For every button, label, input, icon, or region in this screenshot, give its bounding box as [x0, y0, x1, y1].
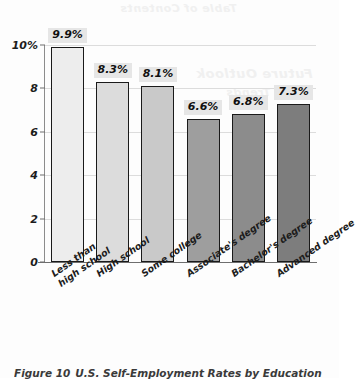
bar-value-label: 6.8%	[229, 95, 268, 110]
figure-caption: Figure 10U.S. Self-Employment Rates by E…	[14, 367, 334, 379]
bar-value-label: 9.9%	[48, 28, 87, 43]
y-axis-tick-label: 4	[30, 169, 45, 182]
figure-caption-label: Figure 10	[14, 367, 70, 379]
y-axis-tick-label: 8	[30, 82, 45, 95]
bar-value-label: 6.6%	[184, 100, 223, 115]
bleed-through-artifact-top: Table of Contents	[120, 2, 237, 15]
x-axis-category-labels: Less thanhigh schoolHigh schoolSome coll…	[0, 262, 339, 352]
bar	[51, 47, 84, 262]
y-axis-tick-label: 10%	[12, 39, 45, 52]
bar-value-label: 8.1%	[139, 67, 178, 82]
bar-group: 6.6%	[187, 45, 220, 262]
y-axis-tick-label: 2	[30, 212, 45, 225]
bar-group: 8.3%	[96, 45, 129, 262]
figure-caption-text: U.S. Self-Employment Rates by Education	[75, 367, 321, 379]
gridline	[45, 175, 316, 176]
gridline	[45, 219, 316, 220]
gridline	[45, 45, 316, 46]
y-axis-tick-label: 6	[30, 125, 45, 138]
bar	[96, 82, 129, 262]
bar-group: 9.9%	[51, 45, 84, 262]
bar-value-label: 8.3%	[94, 63, 133, 78]
bar-group: 8.1%	[141, 45, 174, 262]
bar-value-label: 7.3%	[274, 85, 313, 100]
plot-area: 0246810%9.9%8.3%8.1%6.6%6.8%7.3%	[45, 45, 316, 262]
gridline	[45, 132, 316, 133]
